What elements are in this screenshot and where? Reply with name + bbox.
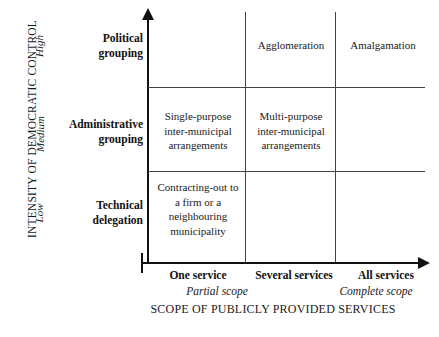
row-label-political-line2: grouping <box>23 46 143 61</box>
cell-multi-purpose-line2: inter-municipal <box>248 124 334 139</box>
x-tick-several-services: Several services <box>244 269 344 281</box>
cell-agglomeration: Agglomeration <box>248 38 334 53</box>
grid-line-vertical-2 <box>335 12 336 262</box>
cell-single-purpose-arrangements: Single-purpose inter-municipal arrangeme… <box>152 109 244 153</box>
x-scope-partial: Partial scope <box>152 285 282 297</box>
cell-single-purpose-line2: inter-municipal <box>152 124 244 139</box>
y-axis-line <box>147 18 149 263</box>
cell-contracting-out-line3: neighbouring <box>152 209 244 224</box>
row-label-political-line1: Political <box>23 31 143 46</box>
grid-line-horizontal-1 <box>148 87 425 88</box>
row-label-administrative-grouping: Administrative grouping <box>23 117 143 147</box>
cell-contracting-out-line4: municipality <box>152 224 244 239</box>
x-axis-title: SCOPE OF PUBLICLY PROVIDED SERVICES <box>108 302 438 317</box>
x-axis-arrow-icon <box>418 257 430 269</box>
cell-amalgamation: Amalgamation <box>338 38 428 53</box>
row-label-technical-line1: Technical <box>23 198 143 213</box>
row-label-political-grouping: Political grouping <box>23 31 143 61</box>
cell-agglomeration-text: Agglomeration <box>248 38 334 53</box>
grid-line-vertical-1 <box>245 12 246 262</box>
governance-matrix-diagram: INTENSITY OF DEMOCRATIC CONTROL High Med… <box>0 0 439 337</box>
cell-contracting-out: Contracting-out to a firm or a neighbour… <box>152 180 244 238</box>
x-scope-complete: Complete scope <box>318 285 434 297</box>
row-label-technical-line2: delegation <box>23 213 143 228</box>
x-axis-line <box>141 262 422 264</box>
y-axis-arrow-icon <box>142 8 154 20</box>
x-axis-origin-tick <box>141 253 143 273</box>
grid-line-horizontal-2 <box>148 171 425 172</box>
row-label-administrative-line1: Administrative <box>23 117 143 132</box>
cell-contracting-out-line1: Contracting-out to <box>152 180 244 195</box>
cell-multi-purpose-arrangements: Multi-purpose inter-municipal arrangemen… <box>248 109 334 153</box>
row-label-administrative-line2: grouping <box>23 132 143 147</box>
row-label-technical-delegation: Technical delegation <box>23 198 143 228</box>
cell-multi-purpose-line1: Multi-purpose <box>248 109 334 124</box>
x-tick-one-service: One service <box>152 269 244 281</box>
cell-contracting-out-line2: a firm or a <box>152 195 244 210</box>
x-tick-all-services: All services <box>344 269 428 281</box>
cell-single-purpose-line1: Single-purpose <box>152 109 244 124</box>
cell-single-purpose-line3: arrangements <box>152 138 244 153</box>
cell-multi-purpose-line3: arrangements <box>248 138 334 153</box>
cell-amalgamation-text: Amalgamation <box>338 38 428 53</box>
